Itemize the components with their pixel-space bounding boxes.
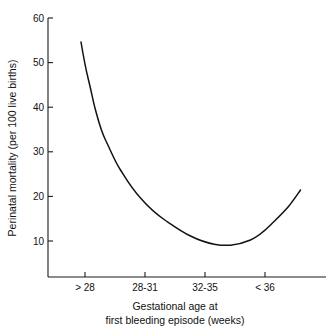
- mortality-curve: [81, 42, 301, 245]
- x-tick-label-2: 28-31: [132, 282, 158, 293]
- y-tick-label-20: 20: [33, 191, 45, 202]
- x-tick-label-1: > 28: [75, 282, 95, 293]
- x-tick-label-3: 32-35: [192, 282, 218, 293]
- chart-svg: 60 50 40 30 20 10 > 28 28-31 32-35 < 36 …: [0, 0, 336, 335]
- y-tick-label-10: 10: [33, 236, 45, 247]
- x-axis-title-line2: first bleeding episode (weeks): [106, 314, 245, 326]
- y-axis-title: Perinatal mortality (per 100 live births…: [6, 60, 18, 237]
- y-tick-label-60: 60: [33, 13, 45, 24]
- chart-figure: 60 50 40 30 20 10 > 28 28-31 32-35 < 36 …: [0, 0, 336, 335]
- x-axis-title-line1: Gestational age at: [132, 300, 217, 312]
- y-tick-label-50: 50: [33, 57, 45, 68]
- x-tick-label-4: < 36: [255, 282, 275, 293]
- y-tick-label-30: 30: [33, 146, 45, 157]
- y-tick-label-40: 40: [33, 102, 45, 113]
